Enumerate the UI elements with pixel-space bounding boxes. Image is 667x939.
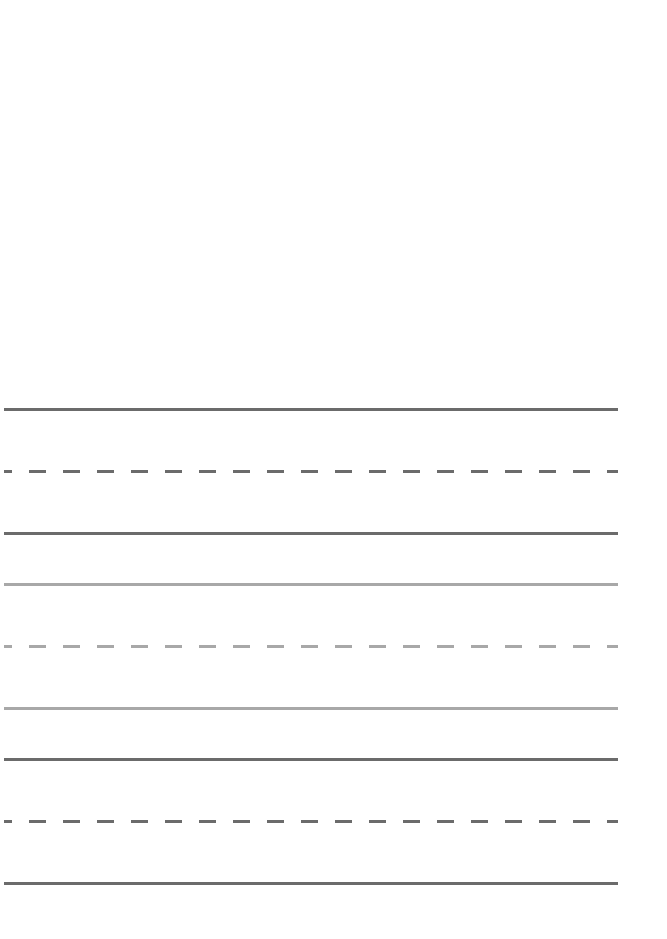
baseline — [4, 532, 618, 535]
midline-dashed — [4, 820, 618, 823]
midline-dashed — [4, 470, 618, 473]
baseline — [4, 882, 618, 885]
midline-dashed — [4, 645, 618, 648]
baseline — [4, 707, 618, 710]
top-line — [4, 408, 618, 411]
practice-sheet — [0, 0, 667, 939]
top-line — [4, 583, 618, 586]
top-line — [4, 758, 618, 761]
